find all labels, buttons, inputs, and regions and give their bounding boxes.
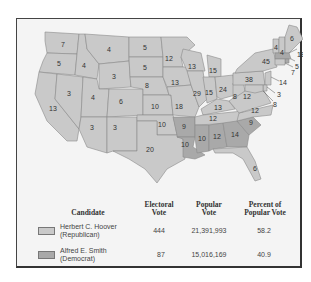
democrat-swatch <box>38 251 55 259</box>
header-popular-line2: Vote <box>184 209 234 217</box>
label-ok: 10 <box>158 121 166 128</box>
label-nh: 4 <box>280 49 284 56</box>
label-nd: 5 <box>143 44 147 51</box>
label-sd: 5 <box>143 64 147 71</box>
state-fl <box>213 147 261 181</box>
map-frame: 7 5 13 4 3 4 3 4 6 3 3 5 5 8 10 10 20 12… <box>16 18 302 268</box>
label-nj: 14 <box>279 79 287 86</box>
label-co: 6 <box>119 98 123 105</box>
us-electoral-map: 7 5 13 4 3 4 3 4 6 3 3 5 5 8 10 10 20 12… <box>17 19 303 195</box>
state-ct <box>275 59 285 65</box>
state-de <box>263 85 267 91</box>
state-az <box>79 117 107 153</box>
label-ma: 18 <box>297 51 303 58</box>
label-wy: 3 <box>112 73 116 80</box>
state-nm <box>107 117 137 153</box>
label-fl: 6 <box>253 165 257 172</box>
label-il: 29 <box>193 90 201 97</box>
label-wv: 8 <box>233 93 237 100</box>
candidate-name-text: Herbert C. Hoover <box>60 223 117 231</box>
label-ar: 9 <box>182 123 186 130</box>
header-candidate: Candidate <box>63 209 113 217</box>
label-la: 10 <box>181 141 189 148</box>
label-md: 8 <box>273 101 277 108</box>
percent-popular: 40.9 <box>249 251 279 258</box>
header-percent-line2: Popular Vote <box>237 209 293 217</box>
label-oh: 24 <box>219 86 227 93</box>
state-me <box>285 25 303 53</box>
label-ct: 7 <box>291 69 295 76</box>
label-mi: 15 <box>209 67 217 74</box>
table-row-smith: Alfred E. Smith (Democrat) 87 15,016,169… <box>17 247 303 269</box>
candidate-name: Herbert C. Hoover (Republican) <box>60 223 117 239</box>
electoral-vote: 87 <box>149 251 173 258</box>
label-ne: 8 <box>145 82 149 89</box>
republican-swatch <box>38 227 55 235</box>
label-mn: 12 <box>165 55 173 62</box>
popular-vote: 21,391,993 <box>183 227 235 234</box>
label-id: 4 <box>82 62 86 69</box>
label-ga: 14 <box>231 131 239 138</box>
table-row-hoover: Herbert C. Hoover (Republican) 444 21,39… <box>17 223 303 245</box>
candidate-name: Alfred E. Smith (Democrat) <box>60 247 107 263</box>
state-ri <box>285 59 289 63</box>
label-ms: 10 <box>198 135 206 142</box>
header-percent-popular: Percent of Popular Vote <box>237 201 293 217</box>
candidate-name-text: Alfred E. Smith <box>60 247 107 255</box>
label-nv: 3 <box>67 90 71 97</box>
label-or: 5 <box>57 60 61 67</box>
label-wi: 13 <box>188 63 196 70</box>
label-tx: 20 <box>146 146 154 153</box>
state-ny <box>235 49 277 73</box>
label-ky: 13 <box>214 104 222 111</box>
label-al: 12 <box>213 133 221 140</box>
label-nm: 3 <box>113 124 117 131</box>
popular-vote: 15,016,169 <box>183 251 235 258</box>
label-sc: 9 <box>249 119 253 126</box>
label-vt: 4 <box>274 44 278 51</box>
label-ut: 4 <box>91 94 95 101</box>
label-va: 12 <box>243 93 251 100</box>
label-ia: 13 <box>171 79 179 86</box>
candidate-party-text: (Republican) <box>60 231 117 239</box>
label-me: 6 <box>290 35 294 42</box>
label-in: 15 <box>205 89 213 96</box>
label-nc: 12 <box>251 107 259 114</box>
label-ny: 45 <box>262 58 270 65</box>
header-electoral-line2: Vote <box>139 209 179 217</box>
state-co <box>107 89 143 117</box>
state-nj <box>265 71 271 85</box>
label-ca: 13 <box>49 105 57 112</box>
label-de: 3 <box>277 91 281 98</box>
label-tn: 12 <box>209 115 217 122</box>
label-mo: 18 <box>175 103 183 110</box>
header-popular-vote: Popular Vote <box>184 201 234 217</box>
candidate-party-text: (Democrat) <box>60 255 107 263</box>
label-pa: 38 <box>245 76 253 83</box>
label-ri: 5 <box>295 63 299 70</box>
label-az: 3 <box>90 124 94 131</box>
electoral-vote: 444 <box>147 227 171 234</box>
state-md <box>245 85 263 93</box>
label-ks: 10 <box>151 103 159 110</box>
percent-popular: 58.2 <box>249 227 279 234</box>
header-electoral-vote: Electoral Vote <box>139 201 179 217</box>
label-mt: 4 <box>107 46 111 53</box>
label-wa: 7 <box>61 41 65 48</box>
